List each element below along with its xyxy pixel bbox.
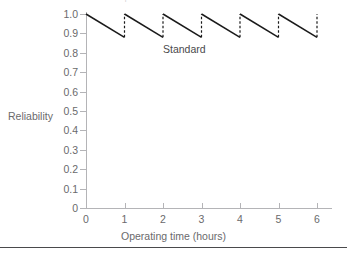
decay-segment — [86, 14, 125, 37]
reliability-chart-figure: 00.10.20.30.40.50.60.70.80.91.0 0123456 … — [0, 0, 347, 240]
decay-segment — [125, 14, 164, 37]
y-axis-title: Reliability — [8, 110, 53, 122]
series-label-standard: Standard — [163, 43, 206, 55]
footer-rule — [0, 247, 347, 248]
decay-segment — [202, 14, 241, 37]
decay-segment — [240, 14, 279, 37]
decay-segment — [163, 14, 202, 37]
x-axis-title: Operating time (hours) — [0, 230, 347, 242]
decay-segment — [279, 14, 318, 37]
